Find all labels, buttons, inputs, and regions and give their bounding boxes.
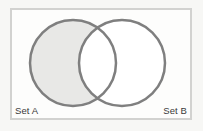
set-b-label: Set B [163, 105, 187, 116]
set-a-label: Set A [15, 105, 38, 116]
venn-diagram-screenshot: Set A Set B [0, 0, 203, 131]
